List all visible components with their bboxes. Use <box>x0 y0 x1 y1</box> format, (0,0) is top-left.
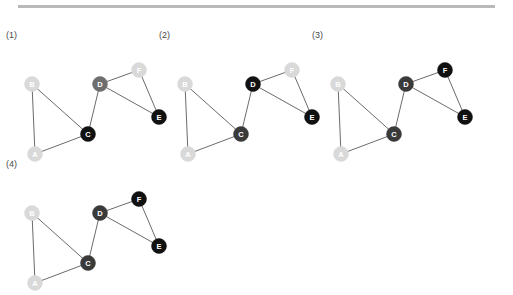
node-D[interactable]: D <box>246 77 261 92</box>
node-group: ABCDEF <box>25 63 167 162</box>
node-label-A: A <box>338 150 344 159</box>
node-B[interactable]: B <box>25 77 40 92</box>
edge-B-C <box>32 84 88 134</box>
node-C[interactable]: C <box>387 127 402 142</box>
node-F[interactable]: F <box>438 63 453 78</box>
node-B[interactable]: B <box>331 77 346 92</box>
edge-D-E <box>100 84 159 117</box>
node-label-A: A <box>32 279 38 288</box>
edge-B-C <box>32 213 88 263</box>
node-label-E: E <box>156 242 161 251</box>
node-group: ABCDEF <box>25 192 167 291</box>
horizontal-rule-divider <box>18 5 495 8</box>
node-E[interactable]: E <box>152 239 167 254</box>
node-D[interactable]: D <box>93 77 108 92</box>
node-label-D: D <box>403 80 409 89</box>
node-label-C: C <box>391 130 397 139</box>
edge-A-B <box>185 84 188 154</box>
node-label-F: F <box>137 195 142 204</box>
node-label-B: B <box>29 80 35 89</box>
node-label-C: C <box>85 259 91 268</box>
node-A[interactable]: A <box>28 276 43 291</box>
edge-D-E <box>100 213 159 246</box>
graph-drawing-4: ABCDEF <box>8 155 183 295</box>
edge-A-C <box>341 134 394 154</box>
node-A[interactable]: A <box>334 147 349 162</box>
node-label-B: B <box>335 80 341 89</box>
node-F[interactable]: F <box>132 192 147 207</box>
node-F[interactable]: F <box>285 63 300 78</box>
edge-B-C <box>338 84 394 134</box>
node-F[interactable]: F <box>132 63 147 78</box>
node-C[interactable]: C <box>81 256 96 271</box>
node-C[interactable]: C <box>81 127 96 142</box>
node-label-F: F <box>443 66 448 75</box>
node-D[interactable]: D <box>93 206 108 221</box>
edge-A-C <box>35 263 88 283</box>
edge-A-B <box>338 84 341 154</box>
node-E[interactable]: E <box>458 110 473 125</box>
node-group: ABCDEF <box>178 63 320 162</box>
graph-drawing-1: ABCDEF <box>8 26 183 171</box>
node-B[interactable]: B <box>25 206 40 221</box>
edge-D-E <box>406 84 465 117</box>
node-D[interactable]: D <box>399 77 414 92</box>
edge-A-C <box>35 134 88 154</box>
node-label-D: D <box>97 80 103 89</box>
node-B[interactable]: B <box>178 77 193 92</box>
node-label-B: B <box>182 80 188 89</box>
node-group: ABCDEF <box>331 63 473 162</box>
node-label-C: C <box>238 130 244 139</box>
node-C[interactable]: C <box>234 127 249 142</box>
graph-drawing-3: ABCDEF <box>314 26 489 171</box>
node-label-C: C <box>85 130 91 139</box>
node-label-D: D <box>97 209 103 218</box>
node-label-E: E <box>462 113 467 122</box>
graph-drawing-2: ABCDEF <box>161 26 336 171</box>
edge-A-B <box>32 84 35 154</box>
node-label-D: D <box>250 80 256 89</box>
node-label-A: A <box>185 150 191 159</box>
node-label-F: F <box>290 66 295 75</box>
edge-A-B <box>32 213 35 283</box>
node-label-B: B <box>29 209 35 218</box>
edge-D-E <box>253 84 312 117</box>
edge-A-C <box>188 134 241 154</box>
edge-B-C <box>185 84 241 134</box>
node-label-F: F <box>137 66 142 75</box>
